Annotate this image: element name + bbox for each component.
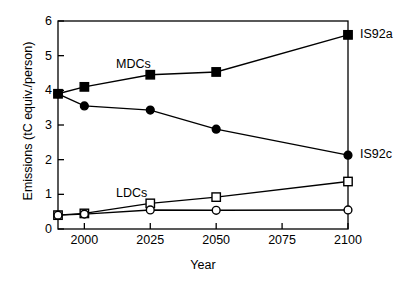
data-point-marker <box>146 206 154 214</box>
data-point-marker <box>344 177 352 185</box>
plot-area <box>0 0 413 291</box>
data-point-marker <box>212 125 220 133</box>
data-point-marker <box>146 71 154 79</box>
data-point-marker <box>212 193 220 201</box>
data-point-marker <box>146 106 154 114</box>
chart-figure: Emissions (tC equiv./person) Year 012345… <box>0 0 413 291</box>
series-line-1 <box>58 94 348 155</box>
data-point-marker <box>54 90 62 98</box>
data-point-marker <box>80 102 88 110</box>
data-point-marker <box>344 31 352 39</box>
data-series <box>54 31 352 220</box>
data-point-marker <box>80 210 88 218</box>
data-point-marker <box>80 83 88 91</box>
data-point-marker <box>212 206 220 214</box>
series-line-0 <box>58 35 348 94</box>
data-point-marker <box>344 206 352 214</box>
data-point-marker <box>54 211 62 219</box>
data-point-marker <box>344 151 352 159</box>
data-point-marker <box>212 68 220 76</box>
